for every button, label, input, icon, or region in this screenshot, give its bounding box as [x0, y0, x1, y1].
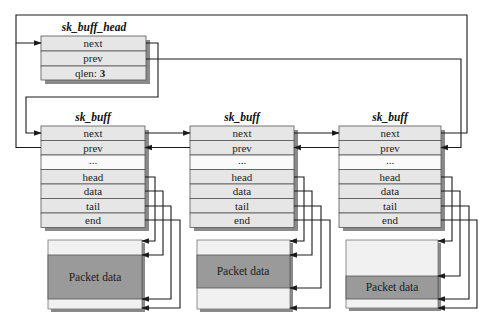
head-next-label: next: [84, 37, 103, 49]
sk-buff-1-end-label: end: [85, 214, 101, 226]
sk-buff-2-end-label: end: [234, 214, 250, 226]
sk-buff-3: sk_buff next prev ... head data tail end: [339, 111, 445, 231]
qlen-key: qlen:: [75, 67, 100, 79]
sk-buff-2-next-label: next: [233, 127, 252, 139]
sk-buff-1-next-label: next: [84, 127, 103, 139]
qlen-value: 3: [100, 67, 106, 79]
sk-buff-2-prev-label: prev: [232, 142, 252, 154]
sk-buff-list-diagram: sk_buff_head next prev qlen: 3 sk_buff n…: [0, 0, 493, 326]
sk-buff-1-title: sk_buff: [74, 111, 112, 124]
sk-buff-3-tail-label: tail: [383, 200, 397, 212]
packet-2-label: Packet data: [217, 265, 270, 277]
sk-buff-2-ellipsis-label: ...: [238, 154, 247, 166]
sk-buff-2-title: sk_buff: [223, 111, 261, 124]
sk-buff-1-ellipsis-label: ...: [89, 154, 98, 166]
packet-1-label: Packet data: [69, 271, 122, 283]
head-prev-label: prev: [83, 52, 103, 64]
sk-buff-3-next-label: next: [381, 127, 400, 139]
sk-buff-2-tail-label: tail: [235, 200, 249, 212]
packet-buffer-3: Packet data: [346, 240, 441, 311]
arrow-skb2-end-ptr: [290, 220, 330, 308]
sk-buff-3-end-label: end: [382, 214, 398, 226]
sk-buff-1-head-label: head: [83, 171, 104, 183]
sk-buff-3-prev-label: prev: [380, 142, 400, 154]
sk-buff-1: sk_buff next prev ... head data tail end: [41, 111, 149, 231]
arrow-skb3-end-ptr: [438, 220, 477, 308]
sk-buff-3-ellipsis-label: ...: [386, 154, 395, 166]
arrow-first-prev-to-head: [16, 43, 41, 148]
arrow-skb1-end-ptr: [142, 220, 180, 308]
sk-buff-head-struct: sk_buff_head next prev qlen: 3: [41, 21, 150, 84]
packet-3-label: Packet data: [366, 281, 419, 293]
head-qlen-label: qlen: 3: [75, 67, 106, 79]
sk-buff-1-data-label: data: [84, 185, 102, 197]
sk-buff-3-head-label: head: [380, 171, 401, 183]
packet-buffer-1: Packet data: [48, 240, 145, 312]
sk-buff-1-tail-label: tail: [86, 200, 100, 212]
sk-buff-1-prev-label: prev: [83, 142, 103, 154]
sk-buff-2-head-label: head: [232, 171, 253, 183]
head-title: sk_buff_head: [61, 21, 127, 34]
sk-buff-2: sk_buff next prev ... head data tail end: [190, 111, 298, 231]
sk-buff-3-title: sk_buff: [371, 111, 409, 124]
sk-buff-2-data-label: data: [233, 185, 251, 197]
packet-buffer-2: Packet data: [197, 240, 293, 312]
sk-buff-3-data-label: data: [381, 185, 399, 197]
